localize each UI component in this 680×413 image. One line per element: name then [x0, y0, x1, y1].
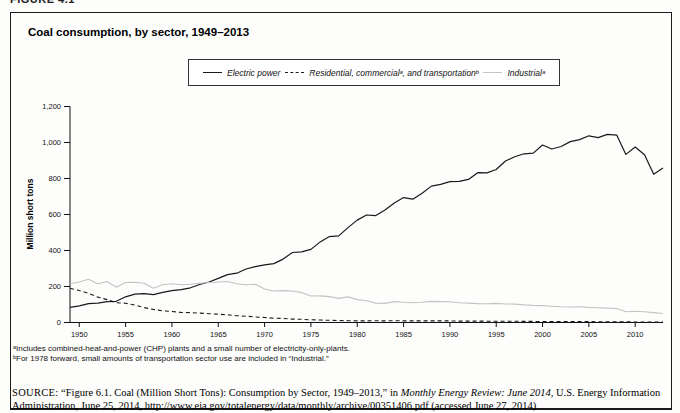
x-tick-label: 1975: [303, 330, 320, 339]
x-tick-label: 1955: [117, 330, 134, 339]
x-tick-label: 1970: [256, 330, 273, 339]
x-tick-label: 2005: [581, 330, 598, 339]
x-tick-label: 1995: [488, 330, 505, 339]
x-tick-label: 1960: [164, 330, 181, 339]
y-axis-title: Million short tons: [25, 178, 35, 249]
x-tick-label: 1950: [71, 330, 88, 339]
footnote-b: ᵇFor 1978 forward, small amounts of tran…: [13, 354, 653, 364]
y-tick-label: 0: [57, 318, 61, 327]
x-tick-label: 2000: [534, 330, 551, 339]
x-tick-label: 1965: [210, 330, 227, 339]
y-tick-label: 800: [48, 174, 61, 183]
x-tick-label: 1980: [349, 330, 366, 339]
source-note: SOURCE: “Figure 6.1. Coal (Million Short…: [12, 386, 664, 412]
y-tick-label: 200: [48, 282, 61, 291]
footnote-a: ᵃIncludes combined-heat-and-power (CHP) …: [13, 344, 653, 354]
series-line-industrial: [70, 279, 663, 313]
series-line-electric-power: [70, 134, 663, 307]
y-tick-label: 400: [48, 246, 61, 255]
source-text-pre: “Figure 6.1. Coal (Million Short Tons): …: [58, 387, 400, 398]
footnotes: ᵃIncludes combined-heat-and-power (CHP) …: [13, 344, 653, 363]
y-tick-label: 1,200: [42, 102, 61, 111]
y-tick-label: 600: [48, 210, 61, 219]
source-title-italic: Monthly Energy Review: June 2014: [401, 387, 551, 398]
y-tick-label: 1,000: [42, 138, 61, 147]
source-label: SOURCE:: [12, 387, 58, 398]
x-tick-label: 1985: [395, 330, 412, 339]
x-tick-label: 2010: [627, 330, 644, 339]
x-tick-label: 1990: [442, 330, 459, 339]
